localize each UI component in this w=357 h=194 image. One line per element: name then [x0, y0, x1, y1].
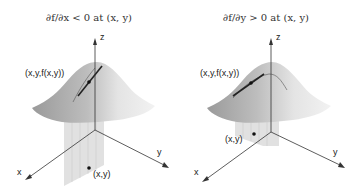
surface-point-label: (x,y,f(x,y))	[25, 69, 64, 78]
z-axis-label: z	[100, 33, 105, 42]
surface-plot-y	[177, 0, 355, 194]
x-axis-label: x	[194, 168, 199, 177]
base-point	[87, 166, 91, 170]
surface-plot-x	[0, 0, 178, 194]
y-axis-label: y	[333, 148, 338, 157]
panel-title: ∂f/∂x < 0 at (x, y)	[0, 12, 178, 23]
base-point	[252, 132, 256, 136]
surface-point	[249, 81, 253, 85]
base-point-label: (x,y)	[93, 170, 111, 179]
x-axis-label: x	[17, 168, 22, 177]
panel-partial-y: ∂f/∂y > 0 at (x, y) z x y (x,y,f(x,y)) (…	[177, 0, 355, 194]
surface-point	[87, 80, 91, 84]
base-point-label: (x,y)	[225, 135, 243, 144]
panel-title: ∂f/∂y > 0 at (x, y)	[177, 12, 355, 23]
z-axis-label: z	[276, 33, 281, 42]
y-axis	[95, 130, 166, 166]
panel-partial-x: ∂f/∂x < 0 at (x, y) z x y (x,y,f(x,y)) (…	[0, 0, 178, 194]
surface-point-label: (x,y,f(x,y))	[200, 69, 239, 78]
y-axis	[271, 132, 342, 166]
y-axis-label: y	[157, 148, 162, 157]
